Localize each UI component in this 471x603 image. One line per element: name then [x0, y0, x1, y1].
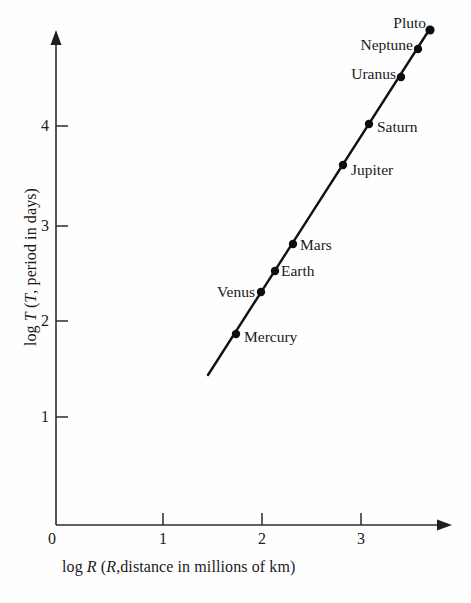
- y-axis-tick-label-1: 1: [41, 409, 49, 425]
- data-point-uranus[interactable]: [397, 73, 405, 81]
- data-point-jupiter[interactable]: [339, 161, 347, 169]
- x-axis-title-variable-2: R: [106, 558, 116, 575]
- x-axis-origin-label: 0: [48, 531, 56, 547]
- x-axis-title: log R (R,distance in millions of km): [62, 558, 295, 576]
- y-axis-tick-label-2: 2: [41, 313, 49, 329]
- x-axis-tick-label-2: 2: [258, 531, 266, 547]
- x-axis-title-variable: R: [87, 558, 97, 575]
- y-axis-title-variable: T: [22, 312, 39, 321]
- data-point-mars[interactable]: [289, 240, 297, 248]
- y-axis-arrow-icon: [51, 30, 62, 45]
- x-axis-tick-label-1: 1: [159, 531, 167, 547]
- y-axis-tick-label-4: 4: [41, 118, 49, 134]
- figure-container: 4 3 2 1 0 1 2 3 Mercury Venus Earth Mars…: [0, 0, 471, 603]
- point-label-uranus: Uranus: [351, 66, 396, 82]
- point-label-saturn: Saturn: [377, 119, 417, 135]
- point-label-mercury: Mercury: [244, 329, 297, 345]
- x-axis-title-rest: ,distance in millions of km): [116, 558, 295, 575]
- x-axis-arrow-icon: [437, 520, 452, 531]
- y-axis-title-prefix: log: [22, 321, 39, 346]
- y-axis-title: log T (T, period in days): [22, 157, 40, 377]
- data-point-earth[interactable]: [271, 267, 279, 275]
- point-label-pluto: Pluto: [393, 15, 426, 31]
- plot-canvas: [0, 0, 471, 603]
- x-axis-tick-label-3: 3: [357, 531, 365, 547]
- x-axis-title-open-paren: (: [97, 558, 107, 575]
- y-axis-tick-label-3: 3: [41, 218, 49, 234]
- data-point-neptune[interactable]: [414, 45, 422, 53]
- point-label-mars: Mars: [300, 237, 332, 253]
- data-point-pluto[interactable]: [425, 25, 434, 34]
- point-label-venus: Venus: [217, 284, 255, 300]
- y-axis-title-open-paren: (: [22, 303, 39, 313]
- point-label-neptune: Neptune: [360, 37, 413, 53]
- point-label-earth: Earth: [281, 263, 315, 279]
- data-point-venus[interactable]: [257, 288, 265, 296]
- data-point-saturn[interactable]: [365, 120, 373, 128]
- y-axis-title-variable-2: T: [22, 294, 39, 303]
- y-axis-title-rest: , period in days): [22, 188, 39, 294]
- point-label-jupiter: Jupiter: [351, 162, 393, 178]
- data-point-mercury[interactable]: [232, 330, 240, 338]
- x-axis-title-prefix: log: [62, 558, 87, 575]
